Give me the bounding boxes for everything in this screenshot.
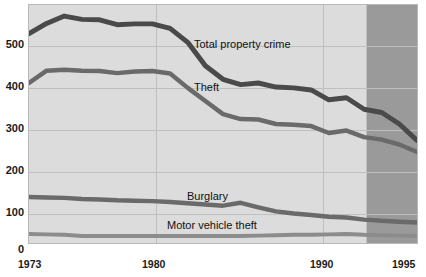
series-path-motor-vehicle-theft <box>29 234 417 236</box>
y-tick-200: 200 <box>0 165 24 176</box>
series-label-theft: Theft <box>194 81 219 93</box>
plot-area: Total property crime Theft Burglary Moto… <box>28 4 418 244</box>
y-tick-0: 0 <box>0 244 24 255</box>
y-tick-300: 300 <box>0 123 24 134</box>
y-tick-100: 100 <box>0 207 24 218</box>
y-tick-400: 400 <box>0 81 24 92</box>
x-tick-1995: 1995 <box>392 259 415 270</box>
x-tick-1990: 1990 <box>310 259 333 270</box>
series-path-total-property-crime <box>29 16 417 140</box>
series-label-motor-vehicle-theft: Motor vehicle theft <box>167 219 257 231</box>
y-axis-tick-labels: 500 400 300 200 100 0 <box>0 0 24 277</box>
y-tick-500: 500 <box>0 39 24 50</box>
property-crime-line-chart: 500 400 300 200 100 0 Total property cri… <box>0 0 426 277</box>
x-tick-1980: 1980 <box>142 259 165 270</box>
series-label-burglary: Burglary <box>187 190 228 202</box>
x-tick-1973: 1973 <box>18 259 41 270</box>
series-label-total-property-crime: Total property crime <box>194 38 291 50</box>
series-path-theft <box>29 70 417 152</box>
